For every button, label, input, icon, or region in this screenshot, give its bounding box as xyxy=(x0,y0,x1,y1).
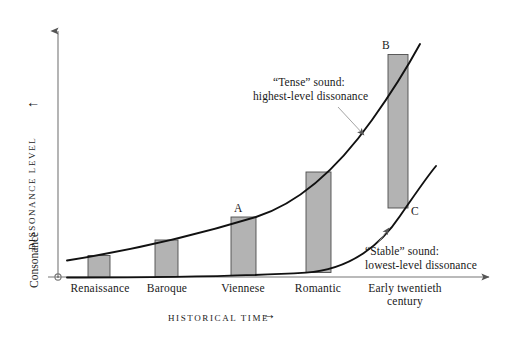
x-axis-title: HISTORICAL TIME xyxy=(168,313,269,324)
tense-callout-leader xyxy=(338,107,364,135)
point-label-b: B xyxy=(382,39,390,53)
stable-callout-line2: lowest-level dissonance xyxy=(365,259,477,273)
x-axis-arrow: → xyxy=(262,308,276,322)
y-axis-origin-label: Consonance xyxy=(28,232,42,288)
bar-early-twentieth-century xyxy=(388,55,408,209)
point-label-a: A xyxy=(234,202,242,216)
tense-callout-line2: highest-level dissonance xyxy=(253,90,368,104)
stable-callout-line1: “Stable” sound: xyxy=(365,245,439,259)
bar-renaissance xyxy=(88,256,110,278)
category-label-romantic: Romantic xyxy=(282,282,354,296)
axis-lines xyxy=(48,31,489,280)
bar-viennese xyxy=(231,217,256,276)
category-label-viennese: Viennese xyxy=(207,282,279,296)
bar-group xyxy=(88,55,408,278)
category-label-century: century xyxy=(356,295,454,309)
category-label-renaissance: Renaissance xyxy=(62,282,138,296)
bar-baroque xyxy=(155,240,178,277)
y-axis-arrow: ↑ xyxy=(26,101,40,108)
tense-callout-line1: “Tense” sound: xyxy=(273,76,345,90)
category-label-baroque: Baroque xyxy=(131,282,203,296)
origin-dot xyxy=(57,276,59,278)
dissonance-level-chart: DISSONANCE LEVEL ↑ Consonance HISTORICAL… xyxy=(0,0,525,340)
category-label-early-twentieth: Early twentieth xyxy=(356,282,454,296)
stable-callout-leader xyxy=(378,228,389,243)
point-label-c: C xyxy=(411,205,419,219)
